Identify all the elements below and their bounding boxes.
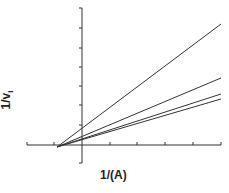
x-axis-label: 1/(A)	[100, 168, 127, 182]
lineweaver-burk-plot	[0, 0, 229, 193]
axes	[27, 8, 221, 163]
y-axis-label: 1/vi	[0, 88, 34, 112]
